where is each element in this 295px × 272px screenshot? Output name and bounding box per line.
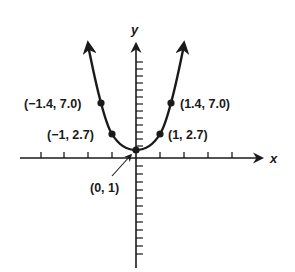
x-axis-label: x	[269, 151, 278, 166]
label-point-0: (0, 1)	[90, 181, 119, 195]
point-neg1	[108, 130, 115, 137]
parabola-chart: x	[0, 0, 295, 272]
label-point-neg14: (−1.4, 7.0)	[24, 97, 81, 111]
curve-left-arrow	[88, 43, 89, 50]
point-0	[132, 146, 139, 153]
label-point-14: (1.4, 7.0)	[180, 97, 230, 111]
y-axis: y	[130, 22, 143, 268]
point-14	[167, 99, 174, 106]
x-axis: x	[20, 151, 278, 166]
point-neg14	[97, 99, 104, 106]
label-point-neg1: (−1, 2.7)	[47, 128, 94, 142]
label-point-1: (1, 2.7)	[168, 128, 208, 142]
curve-right-arrow	[183, 43, 184, 50]
point-1	[156, 130, 163, 137]
y-axis-label: y	[130, 22, 139, 37]
